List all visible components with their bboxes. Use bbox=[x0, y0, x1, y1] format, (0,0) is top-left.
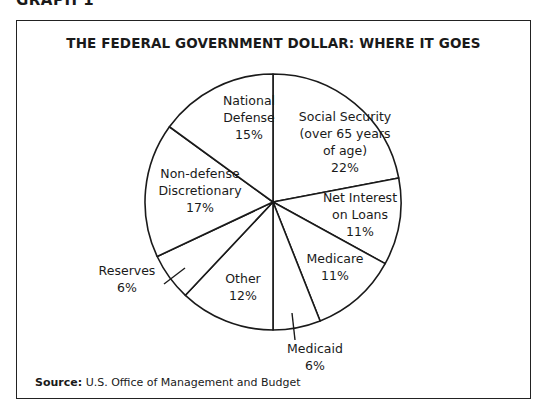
source-text: U.S. Office of Management and Budget bbox=[86, 376, 301, 389]
chart-frame: THE FEDERAL GOVERNMENT DOLLAR: WHERE IT … bbox=[16, 20, 531, 399]
source-label: Source: bbox=[35, 376, 82, 389]
slice-label: Reserves6% bbox=[99, 263, 156, 295]
pie-chart: Social Security(over 65 yearsof age)22%N… bbox=[17, 21, 532, 400]
graph-label: GRAPH 1 bbox=[16, 0, 94, 9]
source-note: Source: U.S. Office of Management and Bu… bbox=[35, 376, 301, 389]
slice-label: Medicaid6% bbox=[287, 341, 343, 373]
